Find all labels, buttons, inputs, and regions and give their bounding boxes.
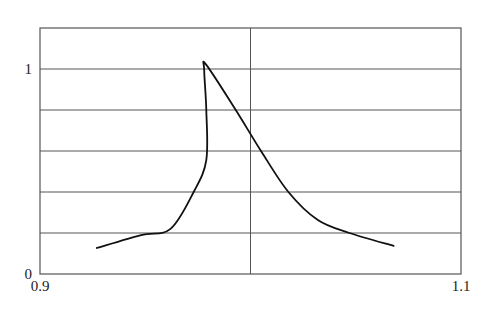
line-chart: 01 0.91.1 [0,0,488,312]
y-tick-label: 1 [25,61,33,77]
grid-lines [40,28,461,274]
x-axis-tick-labels: 0.91.1 [31,278,471,294]
series-line [97,62,394,248]
y-axis-tick-labels: 01 [25,61,33,282]
x-tick-label: 1.1 [452,278,471,294]
x-tick-label: 0.9 [31,278,50,294]
data-series [97,62,394,248]
